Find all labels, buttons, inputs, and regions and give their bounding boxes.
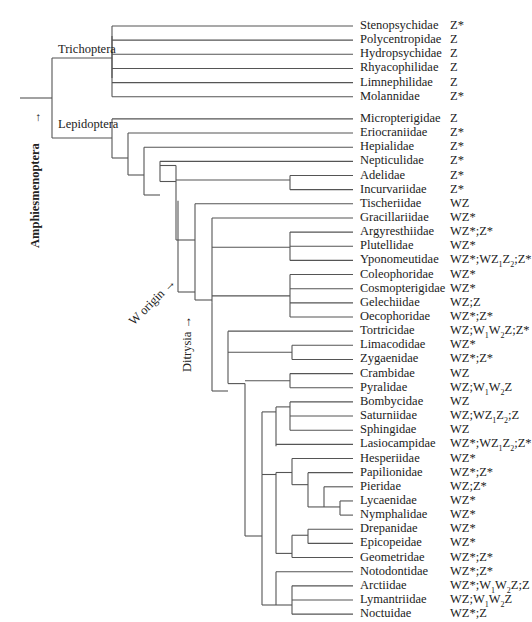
taxon-name: Yponomeutidae: [360, 252, 439, 266]
taxon-name: Polycentropidae: [360, 32, 441, 46]
sex-chromosome-system: WZ*: [450, 238, 476, 252]
taxon-name: Gelechiidae: [360, 295, 420, 309]
ditrysia-arrow-icon: →: [180, 316, 194, 329]
taxon-name: Incurvariidae: [360, 182, 427, 196]
sex-chromosome-system: Z: [450, 32, 458, 46]
taxon-name: Lasiocampidae: [360, 436, 436, 450]
taxon-name: Limacodidae: [360, 337, 425, 351]
clade-label-ditrysia: Ditrysia →: [180, 316, 195, 372]
sex-chromosome-system: WZ*: [450, 281, 476, 295]
sex-chromosome-system: WZ*: [450, 210, 476, 224]
taxon-name: Lycaenidae: [360, 493, 417, 507]
sex-chromosome-system: WZ: [450, 394, 469, 408]
sex-chromosome-system: Z*: [450, 182, 464, 196]
taxon-name: Adelidae: [360, 168, 405, 182]
taxon-name: Tischeriidae: [360, 196, 421, 210]
sex-chromosome-system: Z*: [450, 168, 464, 182]
sex-chromosome-system: Z*: [450, 18, 464, 32]
sex-chromosome-system: Z*: [450, 139, 464, 153]
taxon-name: Papilionidae: [360, 465, 423, 479]
taxon-name: Crambidae: [360, 366, 415, 380]
sex-chromosome-system: WZ*: [450, 507, 476, 521]
taxon-name: Hesperiidae: [360, 451, 420, 465]
clade-label-lepidoptera: Lepidoptera: [58, 117, 118, 132]
taxon-name: Gracillariidae: [360, 210, 429, 224]
taxon-name: Plutellidae: [360, 238, 413, 252]
taxon-name: Epicopeidae: [360, 535, 422, 549]
sex-chromosome-system: Z: [450, 46, 458, 60]
sex-chromosome-system: WZ*;Z: [450, 606, 487, 620]
sex-chromosome-system: Z: [450, 75, 458, 89]
sex-chromosome-system: Z*: [450, 89, 464, 103]
sex-chromosome-system: WZ*: [450, 535, 476, 549]
taxon-name: Lymantriidae: [360, 592, 427, 606]
taxon-name: Argyresthiidae: [360, 224, 434, 238]
taxon-name: Arctiidae: [360, 578, 407, 592]
taxon-name: Rhyacophilidae: [360, 60, 438, 74]
taxon-name: Nepticulidae: [360, 153, 424, 167]
taxon-name: Cosmopterigidae: [360, 281, 445, 295]
taxon-name: Nymphalidae: [360, 507, 427, 521]
sex-chromosome-system: WZ*;Z*: [450, 309, 493, 323]
sex-chromosome-system: WZ;Z*: [450, 479, 487, 493]
sex-chromosome-system: Z*: [450, 153, 464, 167]
sex-chromosome-system: WZ*: [450, 521, 476, 535]
clade-label-amphiesmenoptera: Amphiesmenoptera: [28, 143, 43, 248]
taxon-name: Tortricidae: [360, 323, 415, 337]
sex-chromosome-system: WZ;Z: [450, 295, 481, 309]
taxon-name: Hepialidae: [360, 139, 414, 153]
taxon-name: Hydropsychidae: [360, 46, 442, 60]
sex-chromosome-system: Z*: [450, 125, 464, 139]
amphiesmenoptera-arrow-icon: →: [29, 112, 44, 124]
sex-chromosome-system: WZ: [450, 196, 469, 210]
sex-chromosome-system: Z: [450, 60, 458, 74]
clade-label-trichoptera: Trichoptera: [58, 42, 116, 57]
taxon-name: Coleophoridae: [360, 267, 434, 281]
taxon-name: Limnephilidae: [360, 75, 433, 89]
sex-chromosome-system: WZ*: [450, 267, 476, 281]
taxon-name: Micropterigidae: [360, 111, 441, 125]
ditrysia-text: Ditrysia: [180, 332, 194, 372]
taxon-name: Pyralidae: [360, 380, 407, 394]
taxon-name: Molannidae: [360, 89, 420, 103]
sex-chromosome-system: WZ: [450, 422, 469, 436]
taxon-name: Sphingidae: [360, 422, 416, 436]
taxon-name: Drepanidae: [360, 521, 418, 535]
taxon-name: Bombycidae: [360, 394, 423, 408]
taxon-name: Geometridae: [360, 550, 425, 564]
sex-chromosome-system: Z: [450, 111, 458, 125]
sex-chromosome-system: WZ*;Z*: [450, 550, 493, 564]
taxon-name: Zygaenidae: [360, 351, 418, 365]
sex-chromosome-system: WZ: [450, 366, 469, 380]
sex-chromosome-system: WZ*: [450, 493, 476, 507]
taxon-name: Noctuidae: [360, 606, 411, 620]
sex-chromosome-system: WZ*: [450, 337, 476, 351]
sex-chromosome-system: WZ*;Z*: [450, 564, 493, 578]
sex-chromosome-system: WZ*;Z*: [450, 224, 493, 238]
taxon-name: Notodontidae: [360, 564, 428, 578]
taxon-name: Eriocraniidae: [360, 125, 427, 139]
sex-chromosome-system: WZ*;Z*: [450, 351, 493, 365]
sex-chromosome-system: WZ*: [450, 451, 476, 465]
taxon-name: Stenopsychidae: [360, 18, 438, 32]
taxon-name: Saturniidae: [360, 408, 417, 422]
taxon-name: Pieridae: [360, 479, 401, 493]
sex-chromosome-system: WZ*;Z*: [450, 465, 493, 479]
taxon-name: Oecophoridae: [360, 309, 430, 323]
